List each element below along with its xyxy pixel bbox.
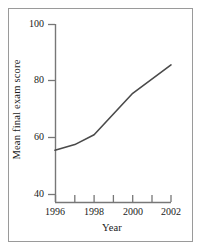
y-tick-label-80: 80 [20, 74, 44, 85]
x-tick-label-2002: 2002 [154, 206, 188, 217]
x-axis-title: Year [51, 222, 173, 233]
data-series-line [55, 65, 171, 150]
y-axis-ticks [48, 25, 55, 195]
x-tick-label-2000: 2000 [116, 206, 150, 217]
x-tick-label-1998: 1998 [77, 206, 111, 217]
y-tick-label-60: 60 [20, 131, 44, 142]
y-tick-label-40: 40 [20, 188, 44, 199]
x-tick-label-1996: 1996 [38, 206, 72, 217]
chart-page: 100 80 60 40 1996 1998 2000 2002 Mean fi… [0, 0, 202, 251]
y-tick-label-100: 100 [20, 18, 44, 29]
y-axis-title: Mean final exam score [11, 50, 22, 170]
x-axis-ticks [56, 195, 172, 202]
